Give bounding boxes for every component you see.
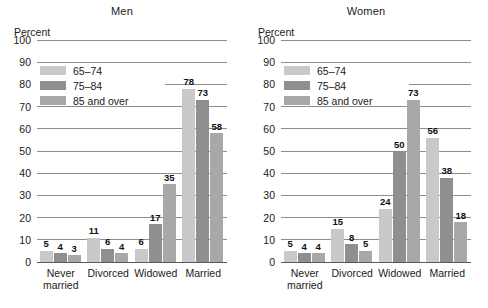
legend-swatch-85-over-icon [284, 96, 310, 105]
legend-label-75-84: 75–84 [317, 80, 346, 92]
bar-value-label: 5 [354, 239, 378, 249]
y-axis-tick: 60 [263, 124, 275, 135]
legend-item-85-over: 85 and over [40, 94, 160, 107]
chart-page: Men Percent 0102030405060708090100543116… [0, 0, 488, 308]
bar-value-label: 3 [62, 244, 86, 254]
legend-label-75-84: 75–84 [73, 80, 102, 92]
legend-swatch-75-84-icon [284, 81, 310, 90]
bar [407, 100, 420, 262]
legend-swatch-75-84-icon [40, 81, 66, 90]
bar [379, 209, 392, 262]
legend-item-85-over: 85 and over [284, 94, 404, 107]
legend-men: 65–74 75–84 85 and over [40, 64, 160, 109]
x-axis-category-label: Married [173, 267, 233, 279]
y-axis-tick: 70 [263, 101, 275, 112]
y-axis-tick: 0 [269, 257, 275, 268]
y-axis-tick: 80 [19, 79, 31, 90]
bar-value-label: 35 [157, 173, 181, 183]
legend-label-65-74: 65–74 [73, 65, 102, 77]
bar [68, 255, 81, 262]
legend-women: 65–74 75–84 85 and over [284, 64, 404, 109]
legend-swatch-65-74-icon [284, 66, 310, 75]
bar [135, 249, 148, 262]
bar [284, 251, 297, 262]
bar-group: 787358 [182, 40, 224, 262]
bar-value-label: 4 [306, 242, 330, 252]
y-axis-tick: 100 [257, 35, 275, 46]
chart-panel-women: Women Percent 01020304050607080901005441… [244, 0, 488, 308]
bar-value-label: 11 [82, 226, 106, 236]
legend-item-65-74: 65–74 [40, 64, 160, 77]
y-axis-tick: 60 [19, 124, 31, 135]
y-axis-tick: 0 [25, 257, 31, 268]
bar [40, 251, 53, 262]
chart-title-men: Men [0, 5, 244, 17]
bar [426, 138, 439, 262]
y-axis-tick: 10 [263, 235, 275, 246]
bar [454, 222, 467, 262]
legend-label-85-over: 85 and over [73, 95, 128, 107]
bar-value-label: 38 [435, 166, 459, 176]
bar-value-label: 58 [205, 122, 229, 132]
y-axis-tick: 40 [19, 168, 31, 179]
bar-value-label: 56 [421, 126, 445, 136]
y-axis-tick: 30 [19, 190, 31, 201]
y-axis-tick: 50 [19, 146, 31, 157]
x-axis-category-label: Married [417, 267, 477, 279]
y-axis-tick: 10 [19, 235, 31, 246]
y-axis-tick: 20 [19, 212, 31, 223]
bar [312, 253, 325, 262]
y-axis-tick: 20 [263, 212, 275, 223]
legend-swatch-65-74-icon [40, 66, 66, 75]
y-axis-tick: 90 [19, 57, 31, 68]
y-axis-tick: 50 [263, 146, 275, 157]
bar [359, 251, 372, 262]
bar [54, 253, 67, 262]
bar-value-label: 78 [177, 77, 201, 87]
chart-title-women: Women [244, 5, 488, 17]
bar [393, 151, 406, 262]
bar-value-label: 73 [401, 88, 425, 98]
y-axis-tick: 70 [19, 101, 31, 112]
y-axis-tick: 40 [263, 168, 275, 179]
legend-item-75-84: 75–84 [40, 79, 160, 92]
y-axis-tick: 90 [263, 57, 275, 68]
bar [182, 89, 195, 262]
bar [115, 253, 128, 262]
bar [298, 253, 311, 262]
legend-label-85-over: 85 and over [317, 95, 372, 107]
bar [210, 133, 223, 262]
legend-label-65-74: 65–74 [317, 65, 346, 77]
bar-group: 563818 [426, 40, 468, 262]
y-axis-tick: 30 [263, 190, 275, 201]
y-axis-tick: 80 [263, 79, 275, 90]
legend-item-75-84: 75–84 [284, 79, 404, 92]
bar-value-label: 18 [449, 211, 473, 221]
bar [149, 224, 162, 262]
bar-value-label: 73 [191, 88, 215, 98]
bar [163, 184, 176, 262]
chart-panel-men: Men Percent 0102030405060708090100543116… [0, 0, 244, 308]
legend-swatch-85-over-icon [40, 96, 66, 105]
bar-value-label: 15 [326, 217, 350, 227]
legend-item-65-74: 65–74 [284, 64, 404, 77]
y-axis-tick: 100 [13, 35, 31, 46]
